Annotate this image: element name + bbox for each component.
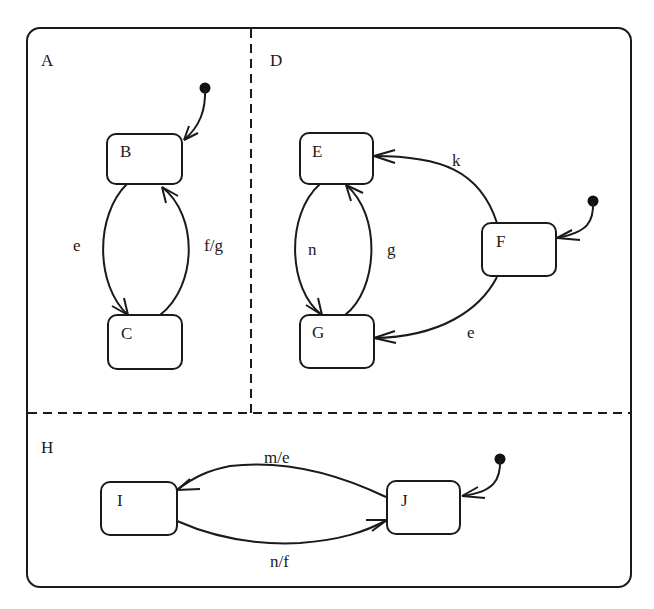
transition-label-g-e: g	[387, 240, 396, 259]
region-label-d: D	[270, 51, 282, 70]
transition-label-e-g: n	[308, 240, 317, 259]
initial-pseudostate-h	[462, 454, 506, 499]
initial-pseudostate-d	[557, 196, 599, 241]
state-f[interactable]: F	[482, 223, 556, 276]
transition-j-to-i[interactable]	[177, 464, 386, 497]
state-label-g: G	[312, 323, 324, 342]
state-e[interactable]: E	[300, 133, 373, 184]
transition-label-f-e: k	[452, 151, 461, 170]
statechart-diagram: A D H e f/g B C k	[0, 0, 654, 609]
state-c[interactable]: C	[108, 315, 182, 369]
state-label-j: J	[401, 491, 408, 510]
transition-label-i-j: n/f	[270, 552, 289, 571]
state-label-f: F	[496, 232, 505, 251]
transition-label-f-g: e	[467, 323, 475, 342]
transition-label-c-b: f/g	[204, 236, 223, 255]
region-label-a: A	[41, 51, 54, 70]
state-label-e: E	[312, 142, 322, 161]
transition-i-to-j[interactable]	[177, 520, 387, 543]
state-b[interactable]: B	[107, 134, 182, 184]
transition-label-j-i: m/e	[264, 448, 290, 467]
transition-c-to-b[interactable]	[160, 187, 189, 315]
transition-g-to-e[interactable]	[345, 185, 371, 315]
state-label-b: B	[120, 142, 131, 161]
transition-f-to-g[interactable]	[374, 277, 497, 343]
state-g[interactable]: G	[300, 315, 374, 368]
arrowhead-icon	[177, 479, 200, 490]
initial-pseudostate-a	[184, 83, 211, 141]
state-label-c: C	[121, 324, 132, 343]
state-i[interactable]: I	[101, 482, 177, 535]
state-label-i: I	[117, 491, 123, 510]
transition-b-to-c[interactable]	[103, 184, 128, 315]
transition-f-to-e[interactable]	[374, 150, 497, 223]
transition-label-b-c: e	[73, 236, 81, 255]
state-j[interactable]: J	[387, 481, 460, 534]
region-label-h: H	[41, 438, 53, 457]
